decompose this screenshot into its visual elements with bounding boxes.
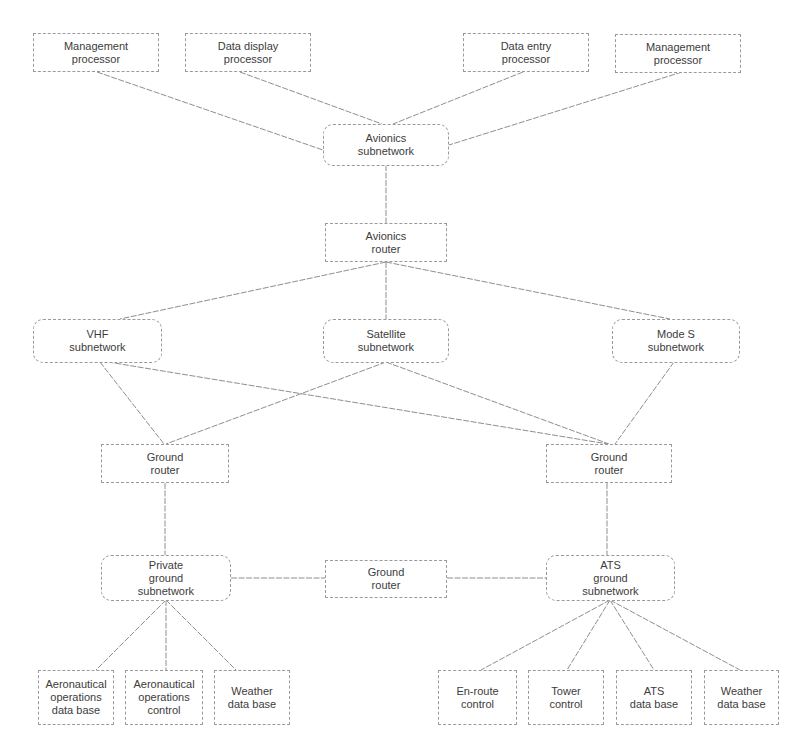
edge-private-weatherL	[166, 600, 236, 670]
aeronautical-operations-database: Aeronautical operations data base	[38, 670, 114, 725]
data-entry-processor: Data entry processor	[463, 33, 589, 72]
node-label: En-route control	[456, 685, 498, 711]
avionics-router: Avionics router	[325, 223, 447, 262]
private-ground-subnetwork: Private ground subnetwork	[101, 555, 231, 601]
ground-router-middle: Ground router	[325, 560, 447, 598]
edge-router-modes	[386, 262, 670, 319]
satellite-subnetwork: Satellite subnetwork	[323, 319, 449, 363]
node-label: Private ground subnetwork	[138, 559, 194, 598]
connection-lines	[0, 0, 800, 748]
edge-sat-groundR	[386, 362, 609, 444]
node-label: Management processor	[646, 41, 710, 67]
edge-private-aerodb	[96, 600, 166, 670]
node-label: ATS data base	[630, 685, 678, 711]
mode-s-subnetwork: Mode S subnetwork	[612, 319, 740, 363]
edge-vhf-groundR	[108, 362, 608, 444]
edge-router-vhf	[120, 262, 386, 319]
edge-display-avionics-subnet	[240, 72, 382, 124]
ats-database: ATS data base	[616, 670, 692, 725]
en-route-control: En-route control	[438, 670, 517, 725]
node-label: Tower control	[549, 685, 582, 711]
edge-ats-weatherR	[610, 600, 740, 670]
node-label: Data display processor	[218, 40, 279, 66]
tower-control: Tower control	[528, 670, 604, 725]
node-label: VHF subnetwork	[69, 328, 125, 354]
vhf-subnetwork: VHF subnetwork	[33, 319, 162, 363]
node-label: Avionics router	[366, 230, 407, 256]
edge-sat-groundL	[166, 362, 386, 444]
edge-mgmt2-avionics-subnet	[449, 72, 682, 145]
ground-router-right: Ground router	[546, 444, 672, 483]
data-display-processor: Data display processor	[185, 33, 311, 72]
edge-ats-enroute	[481, 600, 610, 670]
node-label: ATS ground subnetwork	[582, 559, 638, 598]
node-label: Weather data base	[717, 685, 765, 711]
edge-mgmt1-avionics-subnet	[97, 72, 323, 150]
node-label: Weather data base	[228, 685, 276, 711]
management-processor-left: Management processor	[33, 33, 159, 72]
node-label: Ground router	[368, 566, 405, 592]
node-label: Aeronautical operations control	[133, 678, 194, 717]
edge-vhf-groundL	[100, 362, 164, 444]
node-label: Mode S subnetwork	[648, 328, 704, 354]
aeronautical-operations-control: Aeronautical operations control	[125, 670, 203, 725]
edge-ats-tower	[567, 600, 610, 670]
node-label: Management processor	[64, 40, 128, 66]
node-label: Ground router	[147, 451, 184, 477]
ground-router-left: Ground router	[101, 444, 229, 483]
edge-modes-groundR	[615, 362, 674, 444]
management-processor-right: Management processor	[615, 34, 741, 73]
avionics-subnetwork: Avionics subnetwork	[323, 124, 449, 166]
node-label: Avionics subnetwork	[358, 132, 414, 158]
node-label: Satellite subnetwork	[358, 328, 414, 354]
weather-database-left: Weather data base	[214, 670, 290, 725]
edge-entry-avionics-subnet	[393, 72, 523, 124]
node-label: Ground router	[591, 451, 628, 477]
edge-ats-atsdb	[610, 600, 654, 670]
node-label: Data entry processor	[501, 40, 552, 66]
ats-ground-subnetwork: ATS ground subnetwork	[546, 555, 675, 601]
weather-database-right: Weather data base	[704, 670, 779, 725]
node-label: Aeronautical operations data base	[45, 678, 106, 717]
